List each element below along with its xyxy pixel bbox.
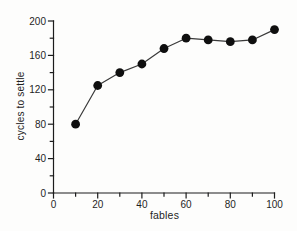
data-point <box>160 44 169 53</box>
x-tick-label: 40 <box>136 199 148 210</box>
data-point <box>115 68 124 77</box>
data-point <box>182 34 191 43</box>
x-tick-label: 0 <box>51 199 57 210</box>
y-tick-label: 160 <box>29 50 46 61</box>
data-line <box>76 30 275 125</box>
chart-figure: 02040608010004080120160200 fables cycles… <box>0 0 297 231</box>
data-point <box>226 37 235 46</box>
data-point <box>93 81 102 90</box>
line-chart: 02040608010004080120160200 <box>0 0 297 231</box>
y-tick-label: 40 <box>35 153 47 164</box>
x-axis-label: fables <box>54 209 275 221</box>
y-tick-label: 200 <box>29 16 46 27</box>
data-point <box>138 60 147 69</box>
y-tick-label: 80 <box>35 119 47 130</box>
y-tick-label: 0 <box>40 188 46 199</box>
data-point <box>204 36 213 45</box>
data-point <box>248 36 257 45</box>
data-point <box>71 120 80 129</box>
x-tick-label: 80 <box>225 199 237 210</box>
y-tick-label: 120 <box>29 84 46 95</box>
x-tick-label: 100 <box>266 199 283 210</box>
y-axis-label: cycles to settle <box>15 72 26 141</box>
x-tick-label: 20 <box>92 199 104 210</box>
data-point <box>270 25 279 34</box>
x-tick-label: 60 <box>181 199 193 210</box>
